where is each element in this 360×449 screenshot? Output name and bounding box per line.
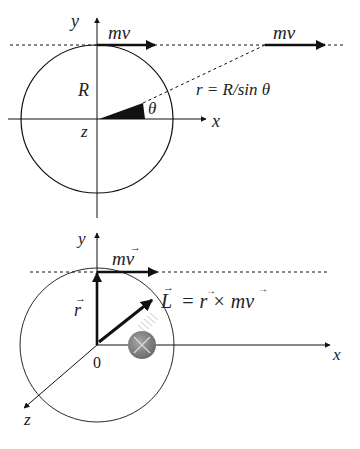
into-page-marker (128, 331, 156, 359)
vector-arrow-icon: → (258, 283, 268, 294)
angular-momentum-formula: L → = r × mv → → (160, 281, 268, 312)
vector-arrow-icon: → (163, 281, 174, 293)
top-x-axis-label: x (211, 111, 220, 131)
vector-arrow-icon: → (75, 292, 86, 304)
top-z-axis-label: z (80, 122, 88, 141)
momentum-label-1: mv (108, 22, 131, 43)
theta-wedge (99, 103, 145, 119)
origin-label: 0 (93, 354, 101, 371)
bottom-z-axis-label: z (23, 410, 31, 429)
top-diagram: y x z R θ mv mv r = R/sin θ (8, 11, 345, 218)
bottom-y-axis-label: y (76, 229, 86, 248)
radius-label: R (77, 80, 89, 100)
bottom-x-axis-label: x (332, 345, 341, 364)
svg-text:L: L (160, 290, 172, 312)
bottom-diagram: y x z 0 r → mv → L → = r × mv → → (20, 229, 341, 429)
distance-formula: r = R/sin θ (196, 80, 270, 99)
vector-arrow-icon: → (206, 285, 216, 296)
r-vector-label: r → (74, 292, 86, 320)
svg-text:= r × mv: = r × mv (181, 290, 254, 312)
momentum-label-2: mv (273, 22, 296, 43)
top-y-axis-label: y (69, 11, 79, 31)
z-axis-bottom (24, 345, 97, 408)
theta-label: θ (148, 99, 156, 118)
vector-arrow-icon: → (130, 241, 141, 253)
angular-momentum-diagram: y x z R θ mv mv r = R/sin θ (0, 0, 360, 449)
mv-vector-label: mv → (112, 241, 141, 269)
spring-hatch (138, 313, 158, 332)
